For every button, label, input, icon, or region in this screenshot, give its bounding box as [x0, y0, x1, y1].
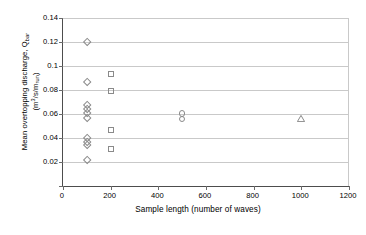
x-axis-title: Sample length (number of waves) — [105, 205, 261, 214]
y-tick-mark — [59, 138, 63, 139]
data-point-square — [108, 71, 114, 77]
x-axis-title-area: Sample length (number of waves) — [0, 205, 366, 214]
x-tick-label: 800 — [233, 192, 273, 200]
scatter-chart: Mean overtopping discharge, Qbar (m3/s/m… — [0, 0, 366, 235]
y-tick-label: 0.08 — [32, 86, 58, 94]
gridline — [63, 66, 349, 67]
y-tick-label: 0.14 — [32, 14, 58, 22]
x-tick-label: 200 — [90, 192, 130, 200]
y-tick-label: 0.02 — [32, 158, 58, 166]
data-point-square — [108, 127, 114, 133]
data-point-diamond — [82, 38, 91, 47]
y-tick-label: 0.1 — [32, 62, 58, 70]
gridline — [63, 42, 349, 43]
plot-area — [62, 18, 349, 187]
y-tick-mark — [59, 18, 63, 19]
y-tick-label: 0.04 — [32, 134, 58, 142]
x-tick-label: 600 — [185, 192, 225, 200]
data-point-diamond — [82, 156, 91, 165]
gridline — [63, 90, 349, 91]
data-point-diamond — [82, 77, 91, 86]
y-tick-label: 0.06 — [32, 110, 58, 118]
y-tick-label: 0.12 — [32, 38, 58, 46]
y-tick-mark — [59, 90, 63, 91]
x-axis-tick-labels: 020040060080010001200 — [0, 190, 366, 202]
data-point-triangle — [297, 115, 305, 122]
x-tick-label: 1200 — [328, 192, 366, 200]
gridline — [63, 138, 349, 139]
y-tick-mark — [59, 42, 63, 43]
y-tick-mark — [59, 114, 63, 115]
y-tick-mark — [59, 162, 63, 163]
x-tick-label: 1000 — [280, 192, 320, 200]
gridline — [63, 114, 349, 115]
data-point-diamond — [82, 114, 91, 123]
data-point-circle — [179, 116, 185, 122]
plot-top-border — [63, 18, 349, 19]
plot-right-border — [348, 18, 349, 186]
gridline — [63, 162, 349, 163]
y-tick-mark — [59, 66, 63, 67]
data-point-square — [108, 88, 114, 94]
x-tick-label: 0 — [42, 192, 82, 200]
x-tick-label: 400 — [137, 192, 177, 200]
data-point-square — [108, 146, 114, 152]
y-axis-tick-labels: 0.020.040.060.080.10.120.14 — [28, 0, 58, 190]
